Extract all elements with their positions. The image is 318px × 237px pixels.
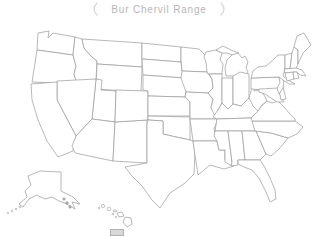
state-wi (204, 50, 223, 74)
hawaii-kauai (101, 204, 104, 207)
hawaii-oahu (107, 207, 111, 211)
state-fl (238, 160, 276, 202)
alaska-inset (7, 171, 80, 214)
hawaii-maui (117, 212, 124, 217)
us-range-map (0, 0, 318, 237)
hawaii-lanai (112, 213, 114, 215)
alaska-archipelago-island (66, 202, 68, 204)
state-nm (113, 120, 147, 163)
state-ne (143, 75, 187, 97)
hawaii-big-island (123, 217, 132, 227)
state-ct (285, 72, 294, 81)
aleutian-island (11, 210, 13, 212)
state-wy (96, 64, 142, 92)
aleutian-island (19, 206, 21, 208)
hawaii-kahoolawe (115, 216, 116, 217)
hawaii-molokai (113, 210, 117, 212)
state-mi-lower (225, 53, 248, 76)
state-ak (19, 171, 80, 209)
state-ar (190, 119, 218, 141)
range-map-widget: Bur Chervil Range (0, 0, 318, 237)
hawaii-inset (98, 204, 132, 227)
aleutian-island (15, 208, 17, 210)
state-nh (290, 47, 298, 69)
aleutian-island (7, 212, 8, 213)
state-or (32, 50, 77, 84)
state-co (115, 90, 148, 122)
alaska-archipelago-island (69, 206, 71, 208)
alaska-archipelago-island (63, 198, 65, 200)
hawaii-niihau (98, 207, 100, 209)
state-ks (148, 96, 190, 116)
legend-in-range-swatch (110, 229, 124, 236)
